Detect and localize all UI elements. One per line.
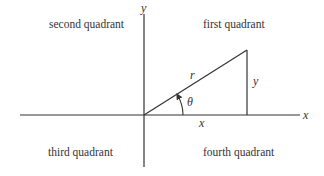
coordinate-diagram: y x r y x θ second quadrant first quadra… [0,0,324,176]
third-quadrant-label: third quadrant [48,146,114,159]
opposite-label: y [252,74,259,88]
second-quadrant-label: second quadrant [49,18,125,31]
x-axis-label: x [302,108,309,122]
first-quadrant-label: first quadrant [203,18,265,31]
angle-arc-icon [178,96,183,115]
fourth-quadrant-label: fourth quadrant [203,146,275,159]
hypotenuse-r [144,50,247,115]
hypotenuse-label: r [190,68,195,82]
angle-label: θ [187,95,193,109]
y-axis-label: y [140,1,147,15]
adjacent-label: x [198,116,205,130]
